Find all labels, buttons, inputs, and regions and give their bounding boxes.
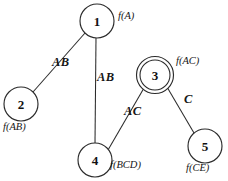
edge-label-3-5: C	[184, 93, 193, 106]
node-4-function-label: f(BCD)	[110, 160, 141, 171]
node-2[interactable]: 2	[4, 87, 38, 121]
node-5-label: 5	[202, 139, 209, 154]
node-5-function-label: f(CE)	[186, 163, 209, 174]
edge-label-3-4: AC	[124, 105, 141, 118]
node-4-label: 4	[92, 153, 99, 168]
node-2-function-label: f(AB)	[3, 122, 26, 133]
edges-layer	[33, 33, 194, 150]
node-1[interactable]: 1	[80, 4, 114, 38]
edge-label-1-4: AB	[97, 71, 114, 84]
edge-3-4	[108, 88, 144, 150]
graph-canvas: 12345	[0, 0, 228, 181]
node-1-function-label: f(A)	[118, 11, 134, 22]
node-2-label: 2	[18, 97, 25, 112]
node-3-label: 3	[152, 68, 159, 83]
node-3-function-label: f(AC)	[176, 56, 199, 67]
node-4[interactable]: 4	[78, 143, 112, 177]
node-3[interactable]: 3	[137, 57, 174, 94]
edge-label-1-2: AB	[52, 56, 69, 69]
nodes-layer: 12345	[4, 4, 222, 177]
node-1-label: 1	[94, 14, 101, 29]
graph-diagram: 12345 ABABACCf(A)f(AB)f(AC)f(BCD)f(CE)	[0, 0, 228, 181]
node-5[interactable]: 5	[188, 129, 222, 163]
edge-1-4	[95, 38, 96, 143]
